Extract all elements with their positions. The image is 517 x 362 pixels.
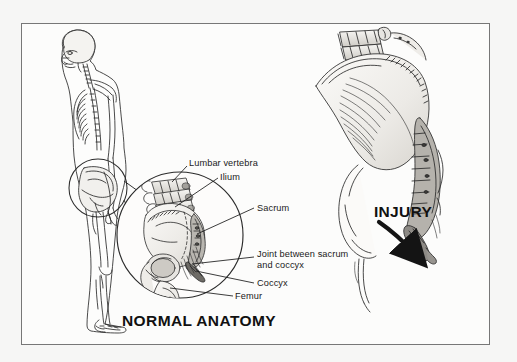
- label-coccyx: Coccyx: [257, 278, 288, 289]
- label-joint-line-1: Joint between sacrum: [257, 249, 348, 259]
- label-joint-between-sacrum-and-coccyx: Joint between sacrumand coccyx: [257, 249, 348, 270]
- injury-ilium: [316, 54, 429, 170]
- title-injury: INJURY: [374, 203, 432, 221]
- illustration-artwork: [0, 0, 517, 362]
- label-femur: Femur: [235, 291, 262, 302]
- medical-illustration-root: Lumbar vertebra Ilium Sacrum Joint betwe…: [0, 0, 517, 362]
- lateral-body-figure: [62, 30, 126, 333]
- pelvis-inset: [117, 172, 243, 327]
- title-normal-anatomy: NORMAL ANATOMY: [122, 312, 276, 330]
- label-sacrum: Sacrum: [257, 203, 289, 214]
- label-ilium: Ilium: [220, 172, 240, 183]
- injury-ischium: [339, 165, 376, 312]
- label-lumbar-vertebra: Lumbar vertebra: [189, 158, 258, 169]
- label-joint-line-2: and coccyx: [257, 260, 304, 270]
